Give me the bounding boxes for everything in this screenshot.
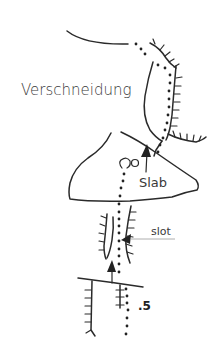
corner-left-line (144, 62, 162, 141)
right-ledge (168, 131, 206, 142)
corner-right-wall (166, 66, 182, 140)
top-ridge-line (67, 31, 128, 44)
topo-drawing (0, 0, 224, 353)
slab-label: Slab (139, 175, 167, 190)
bottom-ledge-line (78, 278, 143, 287)
slot-label: slot (151, 225, 171, 238)
corner-label: Verschneidung (21, 81, 132, 99)
slot-left-wall (99, 214, 107, 259)
bottom-left-wall (85, 281, 95, 336)
upper-overhang-edge (150, 39, 179, 68)
slot-inner-line (107, 217, 113, 258)
bottom-right-wall (116, 285, 124, 308)
grade-label: .5 (138, 299, 151, 313)
belay-loop-icon (120, 158, 139, 168)
lower-arrow-icon (107, 260, 116, 283)
